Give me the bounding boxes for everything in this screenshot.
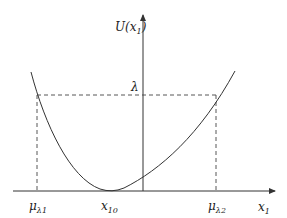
y-axis-label: U(x1) bbox=[115, 20, 147, 36]
lambda-label: λ bbox=[130, 80, 139, 94]
tick-mu-l1: μλ1 bbox=[29, 199, 47, 215]
potential-diagram: U(x1) λ μλ1 x10 μλ2 x1 bbox=[0, 0, 287, 218]
tick-x10: x10 bbox=[101, 199, 118, 215]
x-axis-label: x1 bbox=[258, 200, 270, 216]
tick-mu-l2: μλ2 bbox=[208, 199, 226, 215]
